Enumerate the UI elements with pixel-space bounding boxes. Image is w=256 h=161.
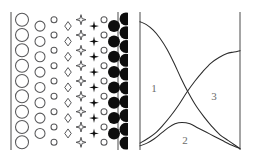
glyph-diamond-open (65, 98, 71, 107)
glyph-star4-open (76, 107, 86, 117)
glyph-star4-filled (89, 67, 99, 77)
glyph-circle-open (51, 109, 57, 115)
glyph-circle-open (51, 32, 57, 38)
glyph-circle-filled (120, 54, 129, 67)
glyph-circle-open (16, 59, 29, 72)
glyph-circle-filled (120, 95, 129, 108)
glyph-circle-open (51, 93, 57, 99)
glyph-circle-filled (108, 20, 120, 32)
glyph-diamond-open (65, 22, 71, 31)
glyph-diamond-open (65, 37, 71, 46)
glyph-star4-filled (89, 113, 99, 123)
glyph-circle-open (101, 63, 107, 69)
glyph-circle-open (35, 36, 45, 46)
glyph-circle-filled (120, 81, 129, 94)
glyph-circle-open (101, 78, 107, 84)
glyph-circle-open (16, 29, 29, 42)
glyph-star4-filled (89, 98, 99, 108)
glyph-star4-open (76, 15, 86, 25)
glyph-circle-open (101, 32, 107, 38)
glyph-star4-filled (89, 52, 99, 62)
glyph-diamond-open (65, 68, 71, 77)
glyph-circle-filled (120, 40, 129, 53)
glyph-circle-open (101, 47, 107, 53)
glyph-circle-filled (108, 35, 120, 47)
glyph-circle-open (51, 78, 57, 84)
glyph-circle-open (101, 124, 107, 130)
glyph-star4-open (76, 30, 86, 40)
glyph-diamond-open (65, 83, 71, 92)
figure-root: 123 (0, 0, 256, 161)
glyph-circle-filled (108, 127, 120, 139)
glyph-circle-filled (120, 68, 129, 81)
right-panel-canvas: 123 (128, 0, 256, 161)
glyph-circle-filled (120, 12, 129, 25)
glyph-circle-open (35, 67, 45, 77)
glyph-circle-filled (120, 123, 129, 136)
glyph-circle-open (51, 63, 57, 69)
glyph-star4-open (76, 122, 86, 132)
glyph-circle-open (16, 136, 29, 149)
glyph-circle-open (35, 128, 45, 138)
glyph-circle-open (101, 17, 107, 23)
glyph-circle-open (35, 113, 45, 123)
glyph-circle-open (16, 105, 29, 118)
curve-label-group: 123 (151, 82, 217, 146)
morphology-gradient-panel (0, 0, 128, 161)
glyph-diamond-open (65, 52, 71, 61)
glyph-circle-filled (120, 137, 129, 150)
glyph-circle-open (51, 47, 57, 53)
glyph-star4-filled (89, 128, 99, 138)
glyph-star4-open (76, 45, 86, 55)
glyph-circle-open (16, 13, 29, 26)
glyph-circle-open (51, 17, 57, 23)
glyph-circle-filled (108, 112, 120, 124)
glyph-circle-open (101, 93, 107, 99)
glyph-circle-open (16, 90, 29, 103)
shape-gradient-field (16, 12, 129, 149)
glyph-circle-open (101, 139, 107, 145)
glyph-circle-open (35, 82, 45, 92)
glyph-diamond-open (65, 129, 71, 138)
glyph-circle-open (51, 139, 57, 145)
glyph-star4-filled (89, 36, 99, 46)
glyph-circle-filled (108, 66, 120, 78)
curve-rising-curve (140, 51, 240, 143)
glyph-circle-filled (120, 26, 129, 39)
glyph-circle-open (35, 21, 45, 31)
glyph-circle-filled (108, 97, 120, 109)
region-label-3: 3 (211, 90, 217, 102)
glyph-circle-filled (108, 51, 120, 63)
glyph-diamond-open (65, 114, 71, 123)
curve-humped-curve (140, 122, 240, 148)
glyph-star4-open (76, 76, 86, 86)
left-panel-canvas (0, 0, 128, 161)
glyph-circle-open (51, 124, 57, 130)
glyph-star4-open (76, 91, 86, 101)
glyph-circle-open (16, 121, 29, 134)
glyph-circle-open (16, 75, 29, 88)
glyph-circle-open (35, 98, 45, 108)
glyph-star4-open (76, 137, 86, 147)
glyph-circle-open (101, 109, 107, 115)
regime-curves-panel: 123 (128, 0, 256, 161)
glyph-star4-filled (89, 82, 99, 92)
glyph-circle-filled (120, 109, 129, 122)
glyph-circle-open (35, 52, 45, 62)
region-label-2: 2 (182, 134, 188, 146)
glyph-star4-filled (89, 21, 99, 31)
glyph-circle-filled (108, 81, 120, 93)
glyph-circle-open (16, 44, 29, 57)
region-label-1: 1 (151, 82, 157, 94)
glyph-star4-open (76, 61, 86, 71)
